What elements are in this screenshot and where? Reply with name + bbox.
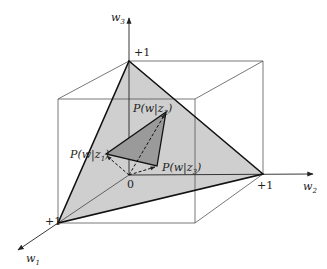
simplex-diagram: w3 +1 w2 +1 w1 +1 0 P(w|z2) P(w|z1) P(w|… (0, 0, 327, 269)
w2-label: w2 (303, 180, 317, 195)
w3-tick-label: +1 (134, 46, 150, 59)
origin-label: 0 (127, 178, 134, 191)
w1-label: w1 (26, 252, 40, 267)
w1-tick-label: +1 (45, 215, 61, 228)
w3-label: w3 (111, 11, 125, 26)
w2-tick-label: +1 (257, 179, 273, 192)
